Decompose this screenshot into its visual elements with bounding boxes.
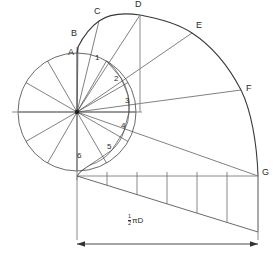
arrow-left [77,241,85,246]
triangle-division-ticks [107,172,227,222]
spiral-curve [77,14,258,176]
point-label-F: F [246,84,252,93]
fraction-denominator: 2 [128,220,131,227]
centre-point [75,110,79,114]
division-label-3: 3 [125,97,129,105]
point-label-B: B [71,29,77,38]
dimension-label: 1 2 πD [128,214,143,227]
division-label-6: 6 [77,152,81,160]
point-label-C: C [94,7,101,16]
spiral-radii [77,15,258,176]
fraction-one-half: 1 2 [128,214,131,227]
diagram-canvas: A B C D E F G 1 2 3 4 5 6 1 2 πD [0,0,273,261]
point-label-D: D [135,0,142,9]
point-label-G: G [262,168,269,177]
point-label-A: A [68,48,74,57]
dimension-line [77,241,258,246]
radius-to-C [77,21,99,112]
division-label-5: 5 [107,143,111,151]
triangle-hypotenuse [77,176,258,232]
division-label-4: 4 [121,122,125,130]
division-label-2: 2 [114,75,118,83]
radius-to-F [77,90,241,112]
arrow-right [250,241,258,246]
rectification-triangle [77,172,258,232]
radius-to-G [77,112,258,176]
dimension-symbol: πD [132,216,143,225]
point-label-E: E [196,21,202,30]
division-label-1: 1 [95,54,99,62]
